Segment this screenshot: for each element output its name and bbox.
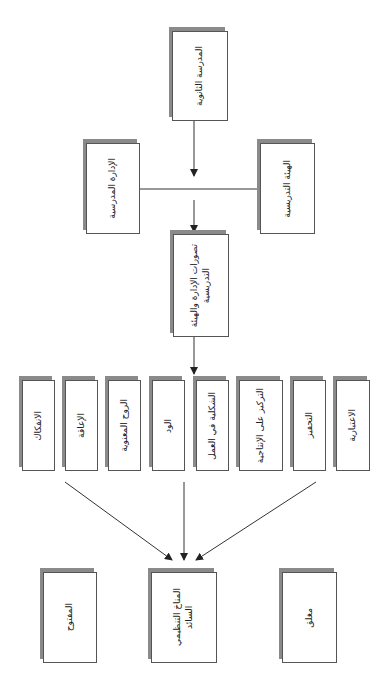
box-label: المفتوح — [64, 603, 76, 631]
box-dimension-production-emphasis: التركيز على الإنتاجية — [239, 380, 283, 471]
box-dimension-hindrance: الإعاقة — [65, 380, 98, 471]
box-dimension-disengagement: الانفكاك — [22, 380, 55, 471]
box-label: مغلق — [304, 608, 316, 628]
box-teaching-staff: الهيئة التدريسية — [260, 143, 315, 234]
box-dimension-aloofness: الشكلية في العمل — [196, 380, 229, 471]
box-dimension-esprit: الروح المعنوية — [108, 380, 141, 471]
box-label: الاعتبارية — [347, 409, 359, 442]
box-label: الشكلية في العمل — [207, 392, 219, 460]
box-dimension-thrust: التحفيز — [293, 380, 326, 471]
box-label: الروح المعنوية — [119, 399, 131, 452]
box-label: الهيئة التدريسية — [282, 160, 294, 218]
box-secondary-school: المدرسة الثانوية — [172, 31, 228, 121]
box-label: الود — [163, 419, 175, 433]
box-school-administration: الإدارة المدرسية — [86, 143, 140, 234]
box-outcome-open: المفتوح — [43, 572, 97, 663]
box-label: تصورات الإدارة والهيئة التدريسية — [189, 244, 212, 327]
box-label: التحفيز — [304, 412, 316, 438]
box-outcome-closed: مغلق — [282, 572, 337, 663]
box-dimension-intimacy: الود — [152, 380, 185, 471]
box-label: المدرسة الثانوية — [194, 46, 206, 106]
box-label: الإعاقة — [76, 413, 88, 438]
box-outcome-prevailing-climate: المناخ التنظيمي السائد — [151, 572, 217, 663]
box-label: الإدارة المدرسية — [107, 158, 119, 219]
box-label: المناخ التنظيمي السائد — [172, 588, 195, 646]
box-dimension-consideration: الاعتبارية — [336, 380, 370, 471]
box-label: التركيز على الإنتاجية — [255, 388, 267, 463]
box-label: الانفكاك — [33, 411, 45, 441]
box-perceptions: تصورات الإدارة والهيئة التدريسية — [173, 234, 229, 337]
